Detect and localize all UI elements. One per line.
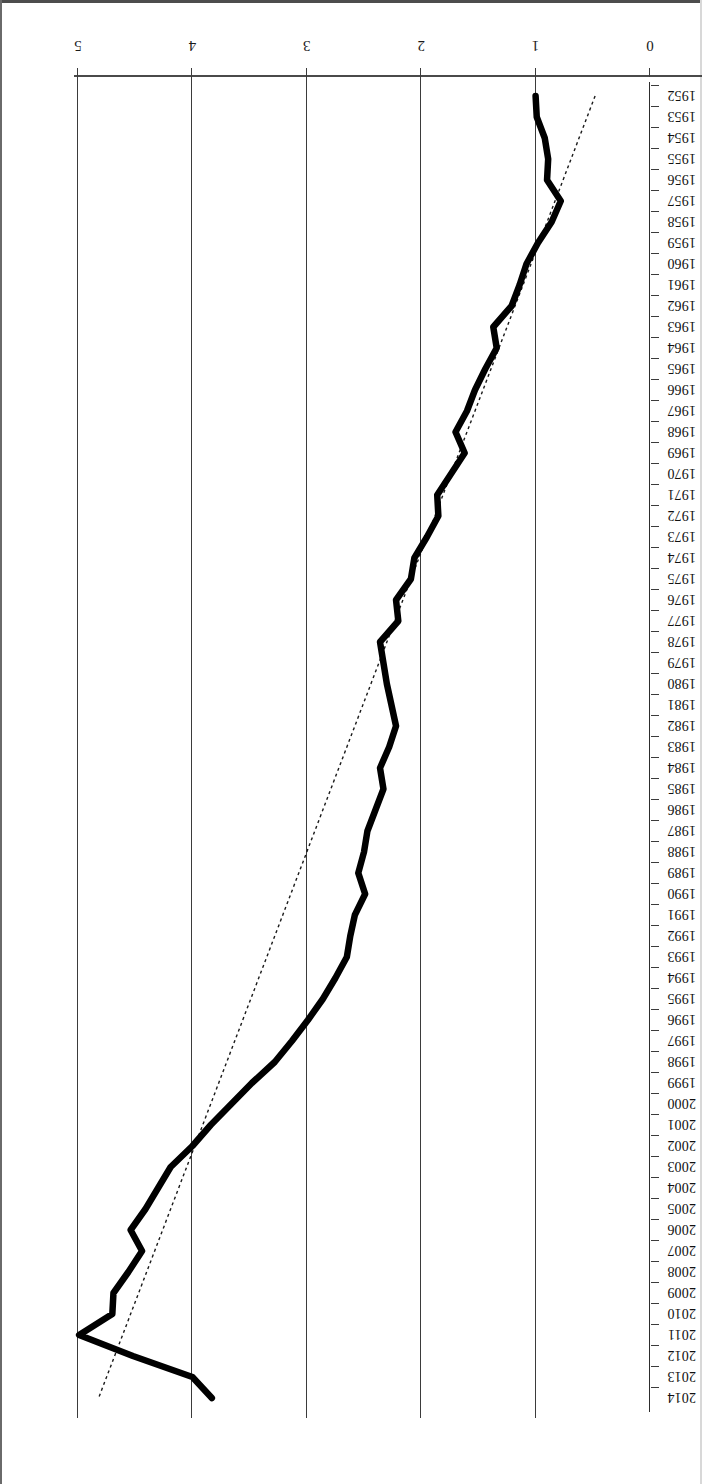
year-label-1975: 1975 [667, 571, 696, 585]
plot-area: 1952195319541955195619571958195919601961… [78, 76, 650, 1418]
year-label-1974: 1974 [667, 550, 696, 564]
year-label-2003: 2003 [667, 1159, 696, 1173]
year-label-2005: 2005 [667, 1201, 696, 1215]
year-tick-1990 [651, 883, 659, 884]
year-label-2000: 2000 [667, 1096, 696, 1110]
year-label-1952: 1952 [667, 88, 696, 102]
year-tick-1998 [651, 1051, 659, 1052]
year-label-1992: 1992 [667, 928, 696, 942]
year-label-1989: 1989 [667, 865, 696, 879]
year-tick-1974 [651, 547, 659, 548]
year-label-1955: 1955 [667, 151, 696, 165]
year-tick-1972 [651, 505, 659, 506]
year-tick-1961 [651, 274, 659, 275]
year-label-1980: 1980 [667, 676, 696, 690]
year-label-1973: 1973 [667, 529, 696, 543]
year-tick-1992 [651, 925, 659, 926]
year-tick-2003 [651, 1156, 659, 1157]
year-label-2014: 2014 [667, 1390, 696, 1404]
line-chart-figure: 1952195319541955195619571958195919601961… [0, 0, 702, 1484]
year-tick-2011 [651, 1324, 659, 1325]
year-tick-1954 [651, 127, 659, 128]
year-label-1961: 1961 [667, 277, 696, 291]
year-tick-1978 [651, 631, 659, 632]
year-label-1986: 1986 [667, 802, 696, 816]
year-tick-1953 [651, 106, 659, 107]
year-tick-1970 [651, 463, 659, 464]
year-tick-1976 [651, 589, 659, 590]
year-label-2004: 2004 [667, 1180, 696, 1194]
year-label-2007: 2007 [667, 1243, 696, 1257]
year-label-2010: 2010 [667, 1306, 696, 1320]
value-label-4: 4 [172, 37, 212, 54]
year-label-2008: 2008 [667, 1264, 696, 1278]
figure-page: 1952195319541955195619571958195919601961… [0, 0, 702, 1484]
year-label-1968: 1968 [667, 424, 696, 438]
year-label-2002: 2002 [667, 1138, 696, 1152]
year-label-1988: 1988 [667, 844, 696, 858]
year-tick-1997 [651, 1030, 659, 1031]
year-label-1984: 1984 [667, 760, 696, 774]
year-label-1969: 1969 [667, 445, 696, 459]
year-tick-1975 [651, 568, 659, 569]
year-tick-1994 [651, 967, 659, 968]
year-label-1956: 1956 [667, 172, 696, 186]
year-tick-2006 [651, 1219, 659, 1220]
year-label-1964: 1964 [667, 340, 696, 354]
year-label-1970: 1970 [667, 466, 696, 480]
year-label-1987: 1987 [667, 823, 696, 837]
value-label-0: 0 [630, 37, 670, 54]
year-tick-2012 [651, 1345, 659, 1346]
year-label-1998: 1998 [667, 1054, 696, 1068]
year-tick-1986 [651, 799, 659, 800]
year-label-1971: 1971 [667, 487, 696, 501]
chart-svg [78, 76, 650, 1418]
value-label-5: 5 [58, 37, 98, 54]
year-tick-1960 [651, 253, 659, 254]
year-tick-2005 [651, 1198, 659, 1199]
year-tick-2013 [651, 1366, 659, 1367]
year-tick-1993 [651, 946, 659, 947]
year-label-2013: 2013 [667, 1369, 696, 1383]
year-tick-1996 [651, 1009, 659, 1010]
year-tick-1983 [651, 736, 659, 737]
year-label-1965: 1965 [667, 361, 696, 375]
year-tick-2009 [651, 1282, 659, 1283]
rotated-figure-container: 1952195319541955195619571958195919601961… [0, 0, 702, 1484]
year-label-1957: 1957 [667, 193, 696, 207]
year-tick-1952 [651, 85, 659, 86]
year-label-1990: 1990 [667, 886, 696, 900]
year-label-1982: 1982 [667, 718, 696, 732]
year-label-1967: 1967 [667, 403, 696, 417]
year-label-1999: 1999 [667, 1075, 696, 1089]
year-label-2009: 2009 [667, 1285, 696, 1299]
year-tick-1987 [651, 820, 659, 821]
year-label-1997: 1997 [667, 1033, 696, 1047]
year-tick-1971 [651, 484, 659, 485]
year-label-1960: 1960 [667, 256, 696, 270]
year-label-1976: 1976 [667, 592, 696, 606]
year-tick-1991 [651, 904, 659, 905]
year-label-2006: 2006 [667, 1222, 696, 1236]
year-label-1954: 1954 [667, 130, 696, 144]
year-tick-1969 [651, 442, 659, 443]
year-tick-1982 [651, 715, 659, 716]
year-label-2011: 2011 [668, 1327, 696, 1341]
year-tick-1965 [651, 358, 659, 359]
year-tick-1958 [651, 211, 659, 212]
year-tick-1984 [651, 757, 659, 758]
year-tick-1968 [651, 421, 659, 422]
year-tick-1989 [651, 862, 659, 863]
year-tick-2007 [651, 1240, 659, 1241]
year-label-1985: 1985 [667, 781, 696, 795]
year-tick-1959 [651, 232, 659, 233]
year-tick-1963 [651, 316, 659, 317]
year-tick-1973 [651, 526, 659, 527]
year-label-1983: 1983 [667, 739, 696, 753]
year-label-1981: 1981 [667, 697, 696, 711]
year-label-1972: 1972 [667, 508, 696, 522]
year-tick-1956 [651, 169, 659, 170]
year-tick-1995 [651, 988, 659, 989]
year-label-1996: 1996 [667, 1012, 696, 1026]
year-tick-1967 [651, 400, 659, 401]
